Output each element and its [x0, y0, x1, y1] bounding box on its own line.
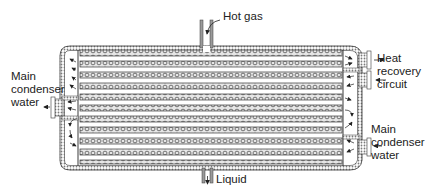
hot-gas-label: Hot gas — [223, 10, 263, 23]
heat-recovery-label: Heat recovery circuit — [377, 52, 421, 91]
tube-bundle — [80, 50, 342, 164]
liquid-label: Liquid — [216, 173, 247, 186]
flow-arrows — [68, 56, 354, 152]
main-condenser-water-left-label: Main condenser water — [11, 70, 65, 109]
main-condenser-water-right-label: Main condenser water — [371, 123, 425, 162]
